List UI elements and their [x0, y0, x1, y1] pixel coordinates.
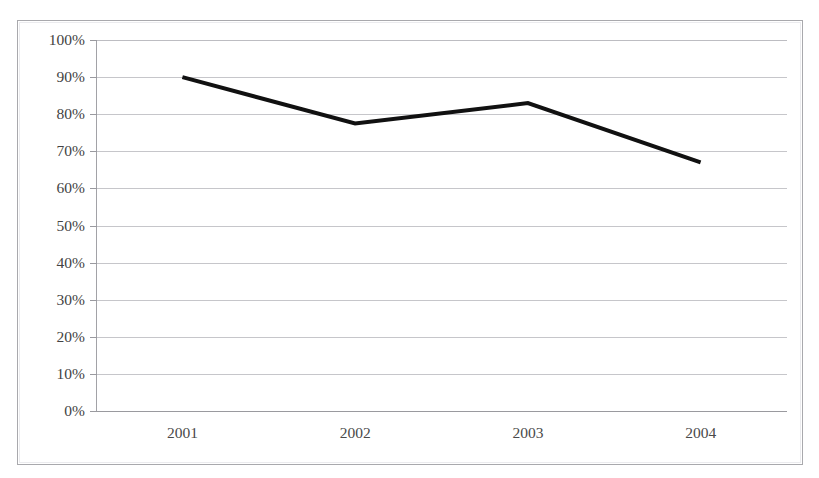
data-series-line — [182, 77, 700, 162]
line-chart: 100%90%80%70%60%50%40%30%20%10%0% 200120… — [0, 0, 819, 478]
series-line-group — [0, 0, 819, 478]
